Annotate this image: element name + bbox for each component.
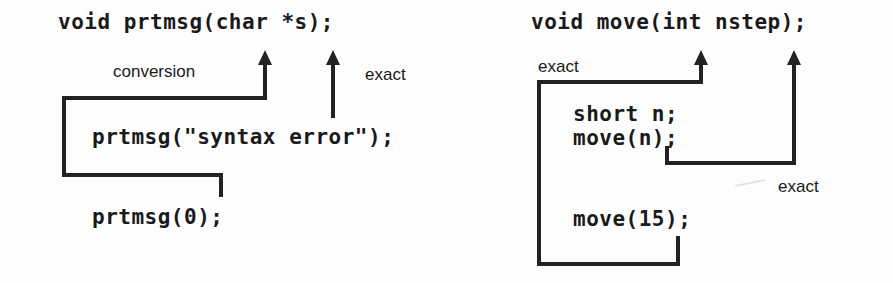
right-outer-left-vertical — [537, 80, 541, 266]
right-call-move-15: move(15); — [573, 209, 691, 230]
right-prototype-declaration: void move(int nstep); — [531, 12, 807, 33]
right-inner-arrow-stem — [792, 62, 796, 165]
right-outer-bottom-horizontal — [537, 262, 680, 266]
left-conversion-descender — [219, 173, 223, 197]
left-conversion-top-horizontal — [62, 96, 267, 100]
right-inner-bottom-horizontal — [665, 161, 796, 165]
prototype-conversion-figure: void prtmsg(char *s); conversion exact p… — [0, 0, 893, 283]
right-call-move-n: move(n); — [573, 128, 678, 149]
right-outer-descender — [676, 236, 680, 264]
left-conversion-left-vertical — [62, 96, 66, 177]
right-declaration-short-n: short n; — [573, 104, 678, 125]
left-conversion-bottom-horizontal — [62, 173, 223, 177]
left-call-null: prtmsg(0); — [92, 207, 223, 228]
left-conversion-arrow-stem — [263, 62, 267, 100]
left-call-syntax-error: prtmsg("syntax error"); — [92, 127, 394, 148]
left-conversion-label: conversion — [113, 63, 195, 80]
left-exact-label: exact — [365, 66, 406, 83]
right-outer-top-horizontal — [537, 80, 703, 84]
left-prototype-declaration: void prtmsg(char *s); — [58, 12, 334, 33]
right-exact-label-lower: exact — [778, 178, 819, 195]
left-exact-arrow-stem — [331, 62, 335, 118]
right-exact-label-upper: exact — [538, 58, 579, 75]
scan-artifact — [735, 179, 765, 187]
